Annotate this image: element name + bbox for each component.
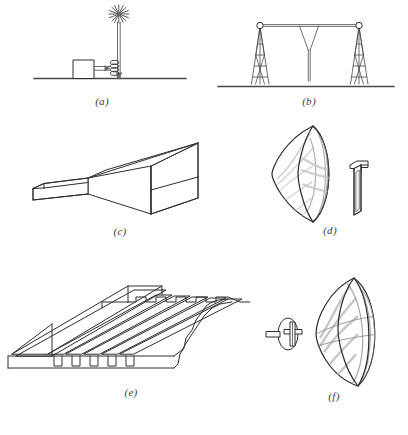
panel-d: (d) [258,118,403,226]
v-downlead [300,26,319,81]
left-tower-insulator [257,22,263,28]
spark-gap-monopole-antenna [0,0,204,96]
panel-c: (c) [10,122,225,227]
panel-b: (b) [204,0,408,96]
panel-e: (e) [6,268,256,390]
transmitter-box [73,60,94,79]
parabolic-dish-with-dipole-feed [262,272,407,394]
starburst-spark-icon [109,5,129,23]
waveguide-section [33,178,88,200]
corrugated-surface-wave-antenna [6,268,256,390]
panel-c-caption: (c) [100,225,140,237]
panel-f-caption: (f) [314,390,354,402]
figure-sheet: (a) [0,0,408,435]
left-riser [12,324,52,356]
panel-d-caption: (d) [310,224,350,236]
right-lattice-tower [351,22,369,84]
tower-supported-wire-antenna [204,0,408,96]
feed-rod [93,65,110,71]
panel-b-caption: (b) [289,95,329,107]
right-tower-insulator [356,22,362,28]
panel-a-caption: (a) [82,95,122,107]
transverse-fins [12,286,242,356]
panel-f: (f) [262,272,407,394]
horizontal-span-wire [262,25,358,27]
bent-waveguide-feed [350,161,368,215]
pyramidal-horn-antenna [10,122,225,227]
dipole-feed [266,318,302,350]
panel-a: (a) [0,0,204,96]
panel-e-caption: (e) [111,386,151,398]
base-slots [54,356,134,366]
end-wall [174,299,232,368]
parabolic-dish-with-horn-feed [258,118,403,226]
left-lattice-tower [252,22,270,84]
